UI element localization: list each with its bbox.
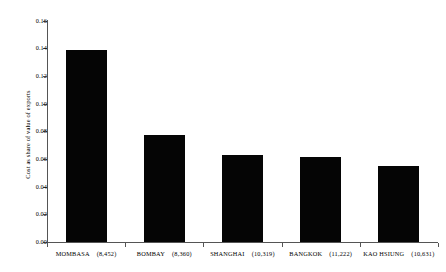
bar bbox=[144, 135, 185, 242]
x-tick-mark bbox=[203, 243, 204, 247]
bar bbox=[66, 50, 107, 242]
x-tick-mark bbox=[47, 243, 48, 247]
x-tick-label: SHANGHAI(10,319) bbox=[203, 250, 281, 257]
bar bbox=[378, 166, 419, 242]
x-tick-label: BOMBAY(8,360) bbox=[125, 250, 203, 257]
x-label-port-value: (11,222) bbox=[329, 250, 352, 257]
x-tick-label: KAO HSIUNG(10,631) bbox=[360, 250, 438, 257]
x-label-port-name: MOMBASA bbox=[56, 250, 90, 257]
y-tick-label: 0.16 bbox=[21, 18, 47, 24]
x-label-port-value: (10,319) bbox=[252, 250, 275, 257]
x-label-port-value: (8,360) bbox=[172, 250, 192, 257]
bar bbox=[300, 157, 341, 242]
x-label-port-name: BOMBAY bbox=[137, 250, 165, 257]
x-label-port-name: SHANGHAI bbox=[210, 250, 244, 257]
x-label-port-value: (10,631) bbox=[411, 250, 434, 257]
x-label-port-value: (8,452) bbox=[97, 250, 117, 257]
bar-chart: 0.160.140.120.100.080.060.040.020.00 Cos… bbox=[0, 0, 446, 272]
x-tick-mark bbox=[438, 243, 439, 247]
x-label-port-name: KAO HSIUNG bbox=[363, 250, 404, 257]
y-tick-label: 0.00 bbox=[21, 239, 47, 245]
x-axis-line bbox=[47, 242, 438, 243]
x-tick-label: BANGKOK(11,222) bbox=[282, 250, 360, 257]
x-tick-mark bbox=[282, 243, 283, 247]
y-axis-line bbox=[47, 20, 48, 243]
x-tick-mark bbox=[360, 243, 361, 247]
x-tick-mark bbox=[125, 243, 126, 247]
x-tick-label: MOMBASA(8,452) bbox=[47, 250, 125, 257]
y-axis-title: Cost as share of value of exports bbox=[24, 45, 31, 225]
x-label-port-name: BANGKOK bbox=[289, 250, 322, 257]
bar bbox=[222, 155, 263, 242]
